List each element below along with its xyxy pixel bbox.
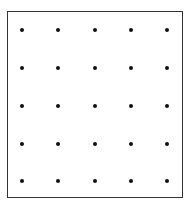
grid-dot — [93, 66, 97, 70]
grid-dot — [56, 28, 60, 32]
grid-dot — [129, 66, 133, 70]
grid-dot — [56, 104, 60, 108]
grid-dot — [165, 142, 169, 146]
grid-dot — [129, 104, 133, 108]
grid-dot — [165, 66, 169, 70]
grid-dot — [20, 142, 24, 146]
grid-dot — [56, 179, 60, 183]
grid-dot — [93, 179, 97, 183]
grid-dot — [56, 142, 60, 146]
grid-dot — [20, 66, 24, 70]
grid-dot — [20, 179, 24, 183]
grid-dot — [93, 28, 97, 32]
grid-dot — [93, 142, 97, 146]
grid-dot — [93, 104, 97, 108]
grid-dot — [165, 104, 169, 108]
grid-dot — [20, 104, 24, 108]
grid-dot — [56, 66, 60, 70]
grid-dot — [165, 28, 169, 32]
grid-dot — [20, 28, 24, 32]
grid-dot — [129, 179, 133, 183]
grid-dot — [129, 142, 133, 146]
grid-dot — [165, 179, 169, 183]
grid-dot — [129, 28, 133, 32]
